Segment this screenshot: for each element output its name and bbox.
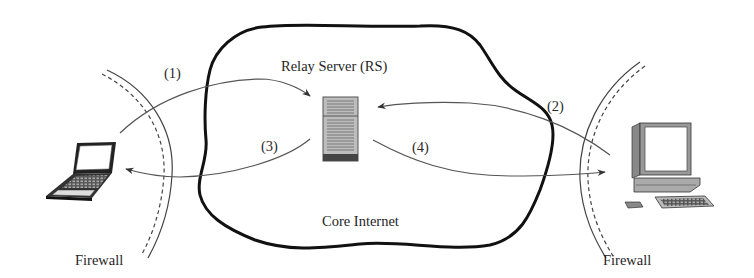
step-2-label: (2) xyxy=(547,99,564,114)
arrow-step-4 xyxy=(373,140,605,176)
left-firewall-solid-arc xyxy=(107,70,172,258)
arrow-step-3 xyxy=(126,139,310,177)
right-firewall-label: Firewall xyxy=(603,253,651,268)
laptop-icon xyxy=(46,142,116,201)
diagram-graphics xyxy=(0,0,754,278)
step-3-label: (3) xyxy=(261,139,278,154)
relay-server-diagram: Relay Server (RS) Core Internet Firewall… xyxy=(0,0,754,278)
desktop-computer-icon xyxy=(625,123,714,208)
core-internet-label: Core Internet xyxy=(322,214,399,229)
left-firewall-label: Firewall xyxy=(75,253,123,268)
relay-server-label: Relay Server (RS) xyxy=(281,59,387,74)
arrow-step-1 xyxy=(120,79,310,133)
step-1-label: (1) xyxy=(164,66,181,81)
server-tower-icon xyxy=(323,97,358,161)
step-4-label: (4) xyxy=(412,140,429,155)
